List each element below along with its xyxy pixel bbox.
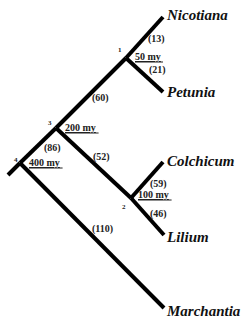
branch-length-label: (13) <box>148 33 165 45</box>
node-id-1: 1 <box>118 46 122 54</box>
branch-length-label: (52) <box>93 151 110 163</box>
branch-root <box>8 163 20 175</box>
taxon-label-nicotiana: Nicotiana <box>166 7 228 23</box>
phylogenetic-tree: NicotianaPetuniaColchicumLiliumMarchanti… <box>0 0 251 326</box>
taxon-label-colchicum: Colchicum <box>167 153 235 169</box>
node-id-4: 4 <box>14 156 18 164</box>
branch-length-label: (86) <box>44 142 61 154</box>
branch-node3-node2 <box>56 128 131 198</box>
node-age-4: 400 my <box>29 157 60 168</box>
node-labels: 150 my2100 my3200 my4400 my <box>14 46 172 211</box>
node-age-1: 50 my <box>135 51 161 62</box>
branch-node3-node1 <box>56 58 126 128</box>
taxon-label-lilium: Lilium <box>166 229 209 245</box>
branch-length-label: (110) <box>92 223 113 235</box>
branch-length-label: (46) <box>150 208 167 220</box>
node-id-2: 2 <box>122 203 126 211</box>
branch-length-label: (60) <box>92 92 109 104</box>
taxon-label-marchantia: Marchantia <box>166 303 241 319</box>
node-age-2: 100 my <box>138 189 169 200</box>
branch-length-label: (21) <box>149 64 166 76</box>
node-age-3: 200 my <box>65 122 96 133</box>
node-id-3: 3 <box>48 119 52 127</box>
taxon-labels: NicotianaPetuniaColchicumLiliumMarchanti… <box>166 7 241 319</box>
taxon-label-petunia: Petunia <box>167 84 216 100</box>
